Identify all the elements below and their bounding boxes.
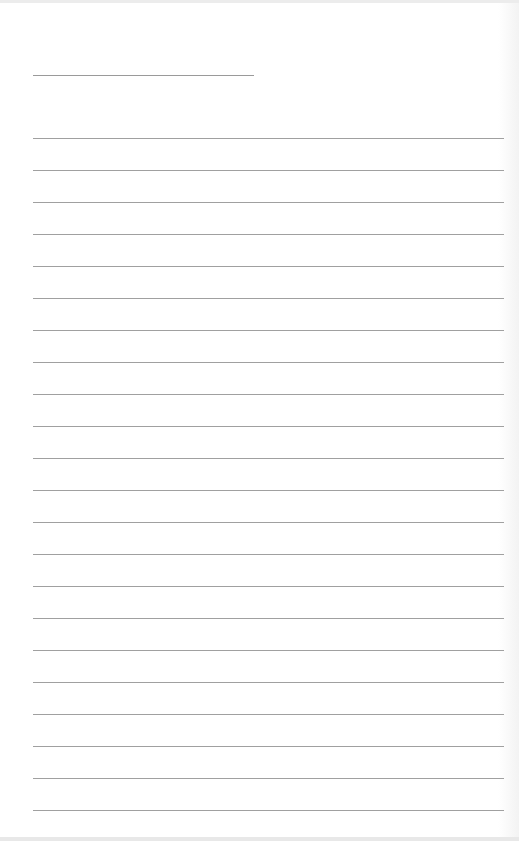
- ruled-line: [33, 778, 504, 779]
- ruled-line: [33, 810, 504, 811]
- page-top-edge: [0, 0, 519, 3]
- ruled-line: [33, 202, 504, 203]
- ruled-line: [33, 362, 504, 363]
- ruled-line: [33, 490, 504, 491]
- lined-paper-page: [0, 0, 519, 841]
- ruled-line: [33, 554, 504, 555]
- ruled-line: [33, 138, 504, 139]
- ruled-line: [33, 746, 504, 747]
- ruled-line: [33, 618, 504, 619]
- ruled-line: [33, 266, 504, 267]
- ruled-line: [33, 394, 504, 395]
- ruled-line: [33, 586, 504, 587]
- ruled-line: [33, 330, 504, 331]
- ruled-line: [33, 426, 504, 427]
- ruled-line: [33, 170, 504, 171]
- ruled-line: [33, 298, 504, 299]
- ruled-line: [33, 714, 504, 715]
- ruled-line: [33, 682, 504, 683]
- ruled-line: [33, 458, 504, 459]
- ruled-line: [33, 522, 504, 523]
- page-bottom-edge: [0, 837, 519, 841]
- ruled-line: [33, 234, 504, 235]
- title-line: [33, 75, 254, 76]
- ruled-line: [33, 650, 504, 651]
